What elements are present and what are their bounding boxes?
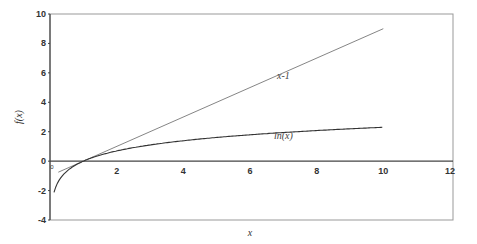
series-line-x-minus-1 [58,29,383,173]
y-tick-label: -2 [38,186,46,196]
y-tick-label: -4 [38,215,46,225]
y-tick-label: 2 [41,127,46,137]
x-tick-label: 12 [445,166,455,176]
curve-label: x-1 [276,70,290,81]
y-tick-label: 4 [41,97,46,107]
series-lines [54,29,383,193]
plot-frame [50,14,453,220]
x-axis-label: x [247,227,253,238]
curve-label: ln(x) [274,130,294,142]
x-tick-label: 2 [114,166,119,176]
y-tick-label: 6 [41,68,46,78]
y-tick-label: 8 [41,38,46,48]
series-line-ln-x [54,127,382,192]
x-tick-label: 0 [50,164,54,170]
x-tick-label: 6 [247,166,252,176]
y-axis-label: f(x) [13,109,25,124]
x-tick-label: 8 [314,166,319,176]
y-tick-label: 0 [41,156,46,166]
x-tick-label: 10 [378,166,388,176]
x-tick-label: 4 [181,166,186,176]
plot-border [50,14,453,220]
axis-ticks: -4-20246810024681012 [36,9,455,225]
y-tick-label: 10 [36,9,46,19]
curve-labels: x-1ln(x) [274,70,294,142]
chart: -4-20246810024681012 x-1ln(x) x f(x) [0,0,477,244]
